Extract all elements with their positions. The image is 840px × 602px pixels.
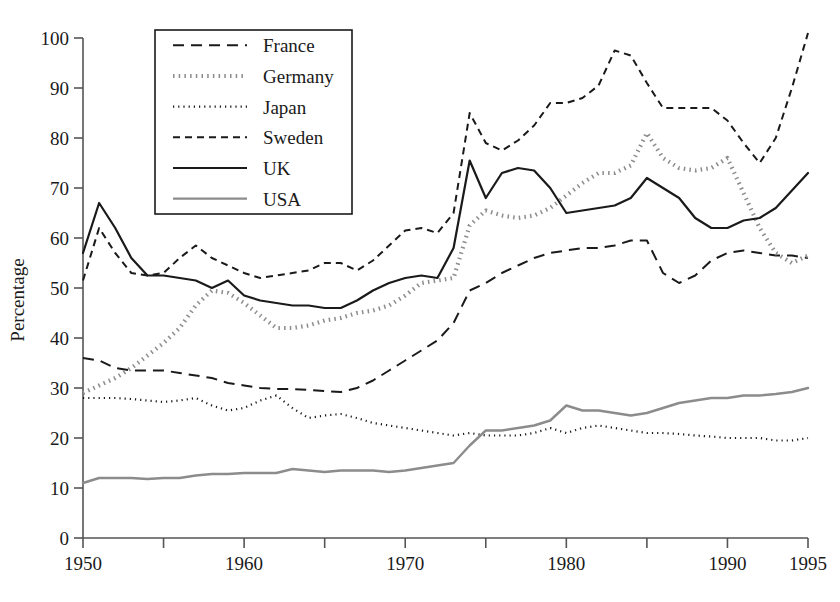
legend-label-usa: USA xyxy=(263,189,301,210)
chart-canvas: 0102030405060708090100 19501960197019801… xyxy=(0,0,840,602)
x-axis-tick-label: 1990 xyxy=(708,553,746,574)
legend-label-uk: UK xyxy=(263,158,291,179)
y-axis-tick-label: 80 xyxy=(50,128,69,149)
legend-label-sweden: Sweden xyxy=(263,127,324,148)
y-axis-tick-label: 0 xyxy=(60,528,70,549)
line-chart: 0102030405060708090100 19501960197019801… xyxy=(0,0,840,602)
x-axis-tick-label: 1950 xyxy=(64,553,102,574)
y-axis-title: Percentage xyxy=(7,258,28,341)
legend-label-germany: Germany xyxy=(263,66,334,87)
legend-label-japan: Japan xyxy=(263,97,307,118)
y-axis-tick-label: 50 xyxy=(50,278,69,299)
y-axis-tick-label: 30 xyxy=(50,378,69,399)
y-axis-tick-label: 100 xyxy=(41,28,70,49)
y-axis-tick-label: 70 xyxy=(50,178,69,199)
legend-label-france: France xyxy=(263,35,315,56)
y-axis-tick-label: 20 xyxy=(50,428,69,449)
y-axis-tick-label: 10 xyxy=(50,478,69,499)
x-axis-tick-label: 1995 xyxy=(789,553,827,574)
chart-background xyxy=(0,0,840,602)
x-axis-tick-label: 1960 xyxy=(225,553,263,574)
chart-legend: FranceGermanyJapanSwedenUKUSA xyxy=(155,30,352,214)
y-axis-tick-label: 90 xyxy=(50,78,69,99)
y-axis-tick-label: 40 xyxy=(50,328,69,349)
y-axis-tick-label: 60 xyxy=(50,228,69,249)
x-axis-tick-label: 1970 xyxy=(386,553,424,574)
legend-box xyxy=(155,30,352,214)
x-axis-tick-label: 1980 xyxy=(547,553,585,574)
